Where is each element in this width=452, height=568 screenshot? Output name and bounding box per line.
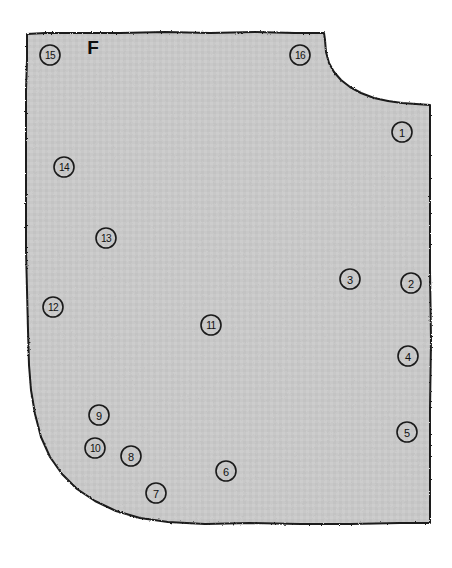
marker-label-11: 11 bbox=[206, 320, 216, 331]
marker-label-5: 5 bbox=[404, 427, 410, 439]
region-letter-label: F bbox=[87, 37, 99, 58]
marker-label-7: 7 bbox=[153, 488, 159, 500]
marker-label-15: 15 bbox=[45, 50, 56, 61]
marker-label-14: 14 bbox=[59, 162, 70, 173]
marker-label-2: 2 bbox=[408, 278, 414, 290]
marker-label-1: 1 bbox=[399, 127, 405, 139]
marker-label-6: 6 bbox=[223, 466, 229, 478]
figure-container: F 12345678910111213141516 bbox=[0, 0, 452, 568]
marker-label-9: 9 bbox=[96, 410, 102, 422]
marker-label-16: 16 bbox=[295, 50, 306, 61]
marker-label-10: 10 bbox=[90, 443, 101, 454]
marker-label-4: 4 bbox=[405, 351, 411, 363]
marker-label-12: 12 bbox=[48, 302, 59, 313]
marker-label-13: 13 bbox=[101, 233, 112, 244]
marker-label-3: 3 bbox=[347, 274, 353, 286]
region-outline-f bbox=[26, 32, 431, 524]
marker-label-8: 8 bbox=[128, 451, 134, 463]
region-map-figure: F 12345678910111213141516 bbox=[0, 0, 452, 568]
region-shape-group bbox=[26, 32, 431, 524]
